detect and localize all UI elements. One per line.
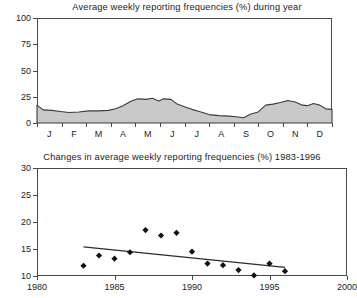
x-tick-label-area: M <box>144 129 152 139</box>
x-tick-mark-scatter <box>270 276 271 280</box>
x-tick-label-area: O <box>267 129 274 139</box>
x-tick-mark-scatter <box>347 276 348 280</box>
x-tick-mark-scatter <box>115 276 116 280</box>
y-tick-label-scatter: 30 <box>0 163 31 173</box>
y-tick-mark-area <box>33 44 37 45</box>
y-tick-label-scatter: 25 <box>0 190 31 200</box>
x-tick-label-area: D <box>316 129 323 139</box>
page-title-area-chart: Average weekly reporting frequencies (%)… <box>0 2 356 12</box>
chart-panel-scatter: Changes in average weekly reporting freq… <box>0 150 356 298</box>
x-tick-mark-area <box>135 123 136 127</box>
y-tick-mark-scatter <box>33 222 37 223</box>
x-tick-mark-area <box>283 123 284 127</box>
y-tick-label-area: 75 <box>0 39 31 49</box>
x-tick-label-scatter: 1995 <box>259 282 279 292</box>
plot-frame-scatter <box>37 168 347 276</box>
page-title-scatter-chart: Changes in average weekly reporting freq… <box>0 152 356 162</box>
y-tick-label-area: 100 <box>0 13 31 23</box>
x-tick-mark-area <box>332 123 333 127</box>
y-tick-label-scatter: 20 <box>0 217 31 227</box>
x-tick-mark-area <box>234 123 235 127</box>
x-tick-label-scatter: 1980 <box>27 282 47 292</box>
x-tick-label-scatter: 1990 <box>182 282 202 292</box>
y-tick-label-area: 25 <box>0 92 31 102</box>
x-tick-label-scatter: 2000 <box>337 282 357 292</box>
y-tick-label-area: 50 <box>0 66 31 76</box>
x-tick-mark-area <box>307 123 308 127</box>
x-tick-label-area: J <box>195 129 200 139</box>
x-tick-mark-area <box>209 123 210 127</box>
y-tick-mark-area <box>33 18 37 19</box>
x-tick-mark-area <box>185 123 186 127</box>
x-tick-label-scatter: 1985 <box>104 282 124 292</box>
x-tick-mark-scatter <box>192 276 193 280</box>
x-tick-label-area: J <box>47 129 52 139</box>
x-tick-mark-area <box>111 123 112 127</box>
plot-frame-area <box>37 18 332 123</box>
x-tick-label-area: A <box>218 129 224 139</box>
y-tick-mark-scatter <box>33 195 37 196</box>
x-tick-label-area: J <box>170 129 175 139</box>
x-tick-label-area: N <box>292 129 299 139</box>
y-tick-label-area: 0 <box>0 118 31 128</box>
x-tick-label-area: A <box>120 129 126 139</box>
x-tick-mark-area <box>86 123 87 127</box>
x-tick-label-area: S <box>243 129 249 139</box>
y-tick-mark-area <box>33 71 37 72</box>
x-tick-mark-area <box>258 123 259 127</box>
y-tick-mark-area <box>33 97 37 98</box>
y-tick-mark-scatter <box>33 249 37 250</box>
chart-panel-area: Average weekly reporting frequencies (%)… <box>0 0 356 150</box>
x-tick-label-area: M <box>95 129 103 139</box>
x-tick-label-area: F <box>71 129 77 139</box>
y-tick-label-scatter: 15 <box>0 244 31 254</box>
x-tick-mark-area <box>160 123 161 127</box>
x-tick-mark-area <box>37 123 38 127</box>
y-tick-mark-scatter <box>33 168 37 169</box>
x-tick-mark-scatter <box>37 276 38 280</box>
x-tick-mark-area <box>62 123 63 127</box>
y-tick-label-scatter: 10 <box>0 271 31 281</box>
